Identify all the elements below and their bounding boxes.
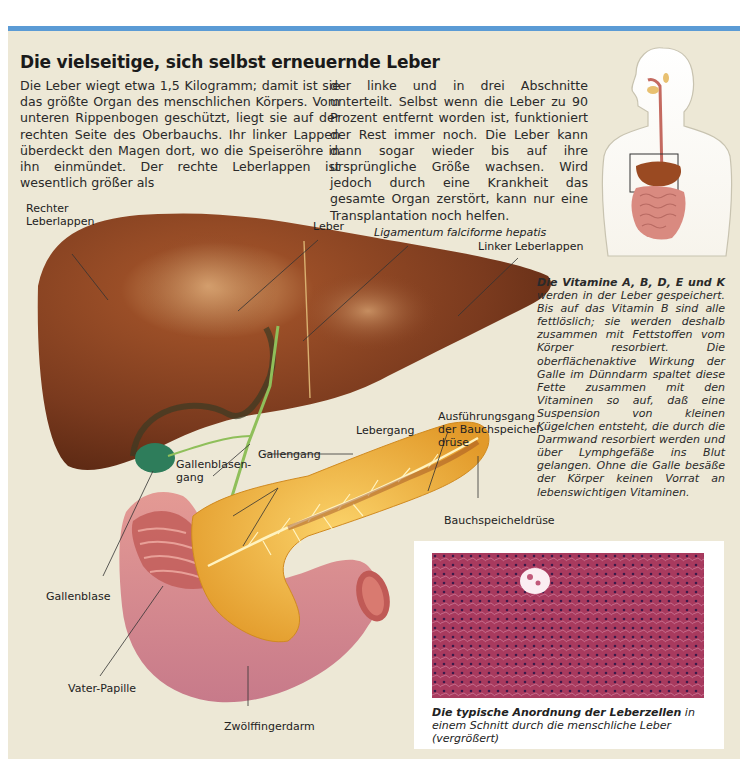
label-bauchspeicheldruese: Bauchspeicheldrüse — [444, 514, 555, 527]
liver-micrograph — [432, 553, 704, 698]
body-silhouette — [602, 48, 731, 256]
label-ausfuehrungsgang: Ausführungsgang der Bauchspeichel- drüse — [438, 410, 543, 449]
label-gallengang: Gallengang — [258, 448, 321, 461]
label-leber: Leber — [313, 220, 344, 233]
vitamin-sidebar: Die Vitamine A, B, D, E und K werden in … — [537, 276, 725, 499]
label-rechter-leberlappen: Rechter Leberlappen — [26, 202, 94, 228]
label-ligamentum: Ligamentum falciforme hepatis — [374, 226, 546, 239]
label-gallenblasengang: Gallenblasen- gang — [176, 458, 251, 484]
micrograph-caption: Die typische Anordnung der Leberzellen i… — [432, 706, 704, 745]
label-linker-leberlappen: Linker Leberlappen — [478, 240, 583, 253]
gallbladder — [135, 443, 175, 473]
label-lebergang: Lebergang — [356, 424, 414, 437]
label-gallenblase: Gallenblase — [46, 590, 110, 603]
label-vater-papille: Vater-Papille — [68, 682, 136, 695]
micrograph-card: Die typische Anordnung der Leberzellen i… — [414, 541, 724, 749]
label-zwoelffingerdarm: Zwölffingerdarm — [224, 720, 315, 733]
sidebar-body: werden in der Leber gespeichert. Bis auf… — [537, 289, 725, 498]
sidebar-heading: Die Vitamine A, B, D, E und K — [537, 276, 725, 289]
page: Die vielseitige, sich selbst erneuernde … — [8, 26, 740, 759]
